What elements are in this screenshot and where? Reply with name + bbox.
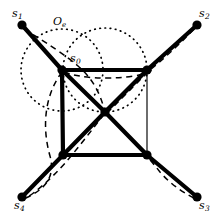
node-label-s4: s4 (14, 200, 24, 211)
node-s2 (192, 20, 201, 29)
neighborhood-label-Oe: Oe (53, 16, 66, 27)
node-label-s3: s3 (199, 200, 209, 211)
node-label-s2-subscript: 2 (205, 12, 210, 21)
thick-edge-7 (63, 112, 105, 155)
node-s1 (17, 20, 26, 29)
node-square-bottom-left (58, 150, 67, 159)
thick-edge-6 (105, 70, 147, 112)
dashed-curve-2 (24, 72, 62, 199)
node-square-top-right (142, 65, 151, 74)
node-square-bottom-right (142, 150, 151, 159)
node-s0 (57, 65, 66, 74)
node-label-s0: s0 (70, 53, 80, 64)
node-label-s1-subscript: 1 (18, 12, 23, 21)
thick-edge-8 (22, 155, 63, 197)
thick-edge-5 (147, 25, 197, 70)
node-label-s4-subscript: 4 (20, 204, 25, 213)
node-label-s1: s1 (12, 8, 22, 19)
thick-edge-4 (147, 155, 197, 197)
graph-diagram-canvas (0, 0, 223, 222)
node-label-s3-subscript: 3 (205, 204, 210, 213)
neighborhood-label-subscript: e (62, 21, 66, 29)
thick-edge-11 (62, 70, 63, 155)
thick-edge-3 (105, 112, 147, 155)
node-label-s2: s2 (199, 8, 209, 19)
node-center (100, 107, 109, 116)
node-label-s0-subscript: 0 (76, 57, 81, 66)
figure-root: Oe s0s1s2s3s4 (0, 0, 223, 222)
